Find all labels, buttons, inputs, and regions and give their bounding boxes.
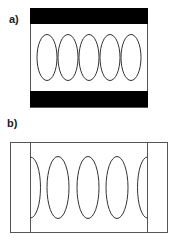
ellipse: [106, 157, 128, 219]
half-ellipse-right: [138, 157, 148, 218]
diagram: [0, 0, 176, 243]
ellipse: [121, 35, 141, 81]
panel-b: [11, 142, 168, 233]
ellipse: [79, 35, 99, 81]
ellipse: [100, 35, 120, 81]
bottom-bar: [30, 91, 148, 107]
ellipse: [58, 35, 78, 81]
ellipse: [47, 157, 69, 219]
panel-a: [30, 8, 148, 108]
ellipse: [77, 157, 99, 219]
top-bar: [30, 8, 148, 24]
ellipse: [37, 35, 57, 81]
half-ellipse-left: [31, 157, 41, 218]
panel-b-frame: [11, 143, 168, 233]
